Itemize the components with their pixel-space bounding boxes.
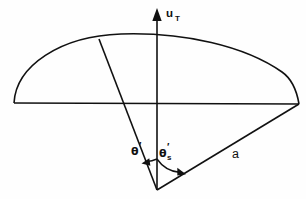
theta-ray: [99, 39, 157, 190]
theta-s-arc-arrowhead-icon: [177, 168, 186, 176]
theta-s-prime-mark: ′: [167, 142, 170, 153]
radius-label: a: [232, 147, 239, 161]
velocity-subscript: T: [175, 14, 180, 23]
theta-symbol: θ: [131, 145, 139, 158]
wedge-geometry-diagram: u T θ ′ θ ′ s a: [0, 0, 306, 199]
radius-ray: [157, 104, 299, 190]
theta-label: θ ′: [131, 141, 142, 158]
theta-s-subscript: s: [167, 153, 172, 162]
velocity-symbol: u: [166, 7, 173, 19]
figure-canvas: u T θ ′ θ ′ s a: [0, 0, 306, 199]
velocity-label: u T: [166, 7, 180, 23]
theta-s-symbol: θ: [159, 147, 167, 160]
theta-s-label: θ ′ s: [159, 142, 172, 162]
axis-arrowhead-icon: [152, 8, 161, 21]
